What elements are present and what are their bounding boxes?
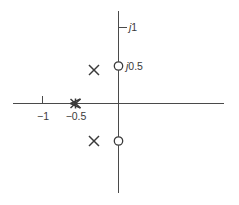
label-j1: j1 bbox=[127, 21, 137, 33]
label-j0.5-value: 0.5 bbox=[128, 60, 143, 72]
plot-canvas: −1 −0.5 j1 j0.5 bbox=[0, 0, 239, 205]
label-minus-1: −1 bbox=[37, 110, 49, 122]
label-j0.5: j0.5 bbox=[124, 60, 143, 72]
label-j1-value: 1 bbox=[131, 21, 137, 33]
pole-marker-lower bbox=[89, 136, 99, 146]
zero-marker-j0.5 bbox=[114, 62, 122, 70]
zero-marker-minus-j0.5 bbox=[114, 137, 122, 145]
pole-marker-upper bbox=[89, 65, 99, 75]
label-minus-0.5: −0.5 bbox=[66, 110, 87, 122]
pole-zero-plot-figure: −1 −0.5 j1 j0.5 bbox=[0, 0, 239, 205]
